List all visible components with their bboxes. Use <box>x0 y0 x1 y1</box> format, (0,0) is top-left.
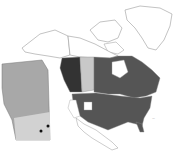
record-marker <box>47 125 50 128</box>
record-marker <box>40 130 43 133</box>
canada-east <box>94 56 160 98</box>
greenland <box>125 6 172 50</box>
arctic-islands <box>90 20 122 42</box>
alaska <box>22 30 70 58</box>
alberta <box>80 57 94 92</box>
scale-label: — <box>152 116 155 120</box>
north-america-map <box>0 0 175 153</box>
british-columbia <box>60 57 82 92</box>
